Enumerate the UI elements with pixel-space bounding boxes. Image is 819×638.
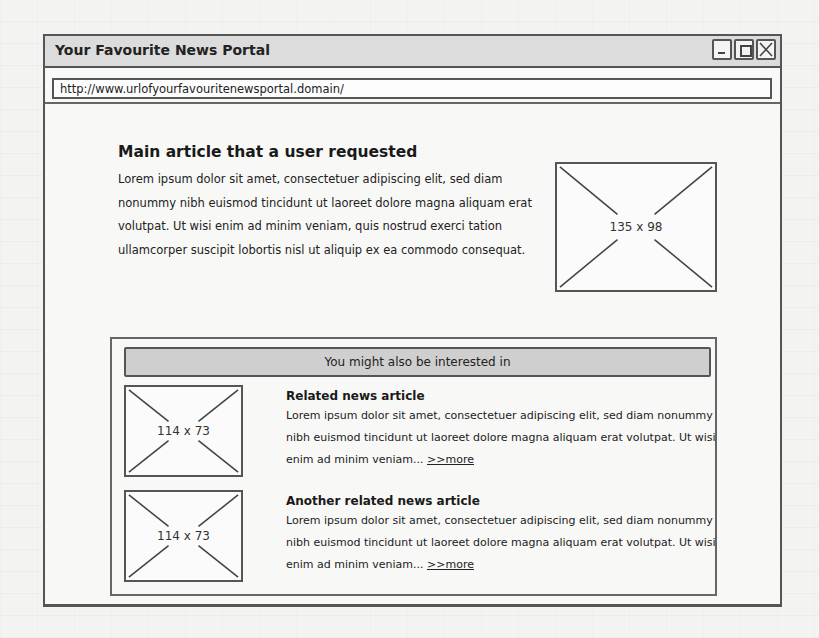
more-link[interactable]: >>more (427, 558, 474, 571)
related-header: You might also be interested in (124, 347, 711, 377)
window-controls (712, 39, 776, 60)
related-title[interactable]: Related news article (286, 389, 425, 403)
related-body: Lorem ipsum dolor sit amet, consectetuer… (286, 405, 716, 471)
image-dimensions: 114 x 73 (126, 529, 241, 543)
more-link[interactable]: >>more (427, 453, 474, 466)
related-thumbnail[interactable]: 114 x 73 (124, 385, 243, 477)
minimize-button[interactable] (712, 39, 732, 60)
image-dimensions: 135 x 98 (557, 220, 715, 234)
main-article-image: 135 x 98 (555, 162, 717, 292)
image-dimensions: 114 x 73 (126, 424, 241, 438)
url-input[interactable]: http://www.urlofyourfavouritenewsportal.… (52, 78, 772, 99)
related-item: 114 x 73 Related news article Lorem ipsu… (124, 385, 711, 477)
related-item: 114 x 73 Another related news article Lo… (124, 490, 711, 582)
close-button[interactable] (756, 39, 776, 60)
related-thumbnail[interactable]: 114 x 73 (124, 490, 243, 582)
related-snippet: Lorem ipsum dolor sit amet, consectetuer… (286, 514, 716, 571)
main-article-title: Main article that a user requested (118, 143, 417, 161)
minimize-icon (718, 52, 725, 54)
window-title: Your Favourite News Portal (55, 42, 270, 58)
header-divider (45, 102, 780, 104)
related-snippet: Lorem ipsum dolor sit amet, consectetuer… (286, 409, 716, 466)
related-articles-panel: You might also be interested in 114 x 73… (110, 337, 717, 596)
maximize-button[interactable] (734, 39, 754, 60)
maximize-icon (740, 45, 752, 57)
title-bar[interactable]: Your Favourite News Portal (45, 36, 780, 68)
related-body: Lorem ipsum dolor sit amet, consectetuer… (286, 510, 716, 576)
browser-window: Your Favourite News Portal http://www.ur… (43, 34, 782, 607)
related-title[interactable]: Another related news article (286, 494, 480, 508)
close-icon (758, 41, 774, 58)
main-article-body: Lorem ipsum dolor sit amet, consectetuer… (118, 168, 538, 262)
